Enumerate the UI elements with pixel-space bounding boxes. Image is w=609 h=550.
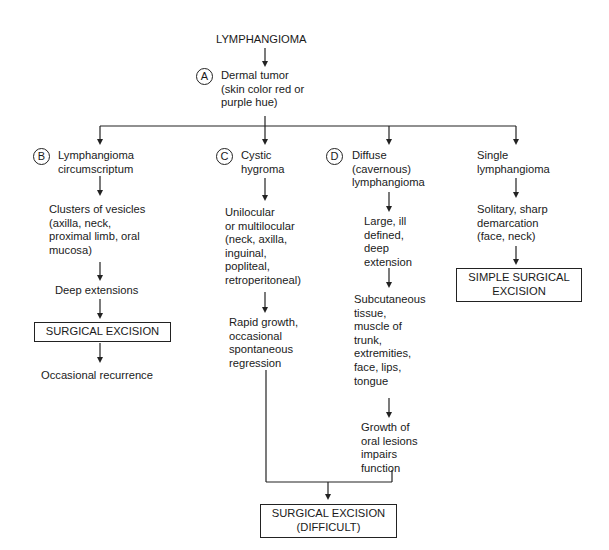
- node-b-treatment-box: SURGICAL EXCISION: [34, 322, 171, 342]
- node-b-outcome: Occasional recurrence: [41, 369, 153, 383]
- node-a-text: Dermal tumor (skin color red or purple h…: [221, 69, 304, 110]
- node-d-step-2: Subcutaneous tissue, muscle of trunk, ex…: [354, 293, 426, 388]
- node-d-title: Diffuse (cavernous) lymphangioma: [352, 149, 425, 190]
- node-e-step-1: Solitary, sharp demarcation (face, neck): [477, 203, 548, 244]
- node-e-treatment-box: SIMPLE SURGICAL EXCISION: [456, 268, 582, 302]
- marker-c-icon: C: [216, 148, 233, 165]
- node-c-step-2: Rapid growth, occasional spontaneous reg…: [229, 316, 298, 370]
- root-title: LYMPHANGIOMA: [216, 33, 307, 47]
- node-e-title: Single lymphangioma: [477, 149, 550, 176]
- cd-treatment-box: SURGICAL EXCISION (DIFFICULT): [260, 504, 397, 538]
- marker-b-icon: B: [33, 148, 50, 165]
- node-b-title: Lymphangioma circumscriptum: [58, 149, 134, 176]
- node-d-step-1: Large, ill defined, deep extension: [364, 215, 412, 269]
- node-c-step-1: Unilocular or multilocular (neck, axilla…: [225, 206, 301, 288]
- marker-d-icon: D: [326, 148, 343, 165]
- node-c-title: Cystic hygroma: [241, 149, 285, 176]
- node-b-step-1: Clusters of vesicles (axilla, neck, prox…: [49, 203, 145, 257]
- marker-a-icon: A: [196, 68, 213, 85]
- node-b-step-2: Deep extensions: [55, 284, 138, 298]
- node-d-step-3: Growth of oral lesions impairs function: [361, 421, 418, 475]
